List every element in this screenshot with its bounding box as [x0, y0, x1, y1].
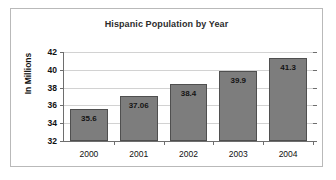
bar[interactable]: 37.06 — [120, 96, 158, 141]
x-axis-tick-mark — [213, 141, 214, 145]
bar-slot: 37.06 — [114, 52, 164, 141]
bar-value-label: 41.3 — [270, 63, 306, 72]
x-axis-tick-label: 2000 — [79, 149, 98, 159]
chart-frame: Hispanic Population by Year In Millions … — [10, 8, 323, 167]
y-axis-tick-mark-right — [313, 88, 317, 89]
y-axis-tick-label: 36 — [48, 100, 57, 110]
y-axis-tick-mark-right — [313, 52, 317, 53]
bar-value-label: 38.4 — [171, 89, 207, 98]
x-axis-tick-mark — [313, 141, 314, 145]
x-axis-tick-mark — [263, 141, 264, 145]
y-axis-tick-mark — [60, 141, 64, 142]
x-axis-tick-label: 2003 — [229, 149, 248, 159]
bar-value-label: 39.9 — [220, 76, 256, 85]
bar-slot: 39.9 — [213, 52, 263, 141]
x-axis-tick-mark — [164, 141, 165, 145]
bar-value-label: 37.06 — [121, 101, 157, 110]
chart-title: Hispanic Population by Year — [11, 19, 322, 29]
bar-slot: 41.3 — [263, 52, 313, 141]
x-axis-tick-label: 2002 — [179, 149, 198, 159]
y-axis-tick-mark-right — [313, 123, 317, 124]
x-axis-tick-label: 2004 — [279, 149, 298, 159]
y-axis-tick-label: 38 — [48, 83, 57, 93]
y-axis-title: In Millions — [24, 44, 33, 104]
bar-value-label: 35.6 — [71, 114, 107, 123]
bar[interactable]: 35.6 — [70, 109, 108, 141]
y-axis-tick-label: 40 — [48, 65, 57, 75]
y-axis-tick-mark-right — [313, 70, 317, 71]
bar[interactable]: 38.4 — [170, 84, 208, 141]
x-axis-tick-label: 2001 — [129, 149, 148, 159]
chart-screenshot: Hispanic Population by Year In Millions … — [0, 0, 336, 180]
y-axis-tick-label: 32 — [48, 136, 57, 146]
bar-slot: 35.6 — [64, 52, 114, 141]
bar[interactable]: 41.3 — [269, 58, 307, 141]
plot-area: 323436384042 35.637.0638.439.941.3 20002… — [63, 52, 313, 142]
y-axis-tick-label: 34 — [48, 118, 57, 128]
y-axis-tick-mark-right — [313, 105, 317, 106]
bar-slot: 38.4 — [164, 52, 214, 141]
y-axis-tick-label: 42 — [48, 47, 57, 57]
x-axis-tick-mark — [114, 141, 115, 145]
bar[interactable]: 39.9 — [219, 71, 257, 141]
